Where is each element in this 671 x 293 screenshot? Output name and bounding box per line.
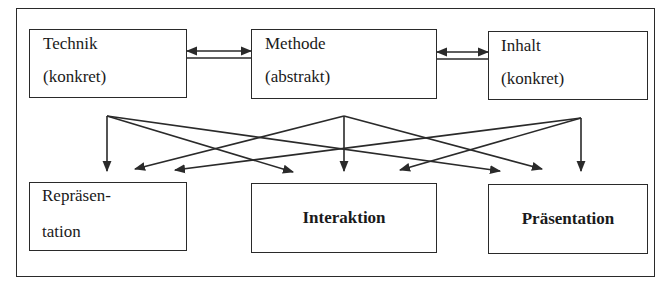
- box-technik: Technik (konkret): [29, 29, 187, 98]
- box-praesentation: Präsentation: [488, 184, 648, 254]
- box-interaktion: Interaktion: [251, 183, 437, 253]
- box-repraesentation-line1: Repräsen-: [42, 186, 111, 206]
- box-inhalt-title: Inhalt: [501, 36, 541, 56]
- box-interaktion-label: Interaktion: [252, 208, 436, 228]
- box-repraesentation-line2: tation: [42, 222, 81, 242]
- box-technik-title: Technik: [43, 34, 98, 54]
- box-inhalt-subtitle: (konkret): [501, 69, 564, 89]
- technik-to-interaktion: [107, 116, 293, 172]
- box-inhalt: Inhalt (konkret): [488, 31, 648, 100]
- box-methode-subtitle: (abstrakt): [265, 67, 330, 87]
- box-technik-subtitle: (konkret): [43, 67, 106, 87]
- technik-to-praesentation: [107, 116, 500, 171]
- box-methode: Methode (abstrakt): [251, 29, 437, 99]
- inhalt-to-interaktion: [400, 118, 581, 170]
- methode-to-praesentation: [344, 116, 542, 169]
- box-praesentation-label: Präsentation: [489, 209, 647, 229]
- box-repraesentation: Repräsen- tation: [29, 182, 187, 251]
- box-methode-title: Methode: [265, 34, 325, 54]
